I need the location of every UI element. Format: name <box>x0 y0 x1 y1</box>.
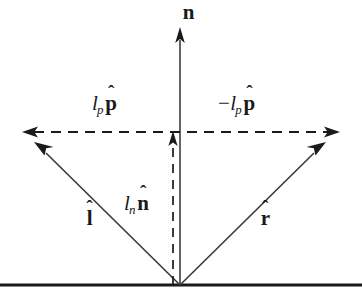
reflection-diagram: ˆn lpˆp −lpˆp lnˆn ˆl ˆr <box>0 0 362 302</box>
reflected-vector <box>180 142 326 285</box>
hat-accent-icon: ˆ <box>246 82 252 101</box>
hat-accent-icon: ˆ <box>185 0 191 10</box>
unit-vector-n-component: ˆn <box>137 193 150 214</box>
incident-vector <box>34 142 180 285</box>
incident-vector-shaft <box>46 153 180 285</box>
scalar-ln: ln <box>124 191 136 215</box>
incident-vector-arrowhead <box>34 142 54 156</box>
label-parallel-component-right: −lpˆp <box>218 93 256 116</box>
label-normal-vector: ˆn <box>181 2 195 23</box>
label-normal-component: lnˆn <box>124 193 149 216</box>
scalar-lp-left-subscript: p <box>97 102 104 117</box>
hat-accent-icon: ˆ <box>108 82 114 101</box>
unit-vector-n: ˆn <box>182 2 195 23</box>
minus-sign: − <box>218 91 230 115</box>
label-parallel-component-left: lpˆp <box>92 93 117 116</box>
normal-component-vector <box>168 131 177 285</box>
diagram-canvas <box>0 0 362 302</box>
reflected-vector-shaft <box>180 153 314 285</box>
label-reflected-vector: ˆr <box>259 208 270 229</box>
hat-accent-icon: ˆ <box>262 197 268 216</box>
unit-vector-r: ˆr <box>260 208 270 229</box>
hat-accent-icon: ˆ <box>86 197 92 216</box>
scalar-ln-subscript: n <box>129 202 136 217</box>
unit-vector-l: ˆl <box>86 208 93 229</box>
unit-vector-p-right: ˆp <box>243 93 256 114</box>
scalar-lp-left: lp <box>92 91 104 115</box>
hat-accent-icon: ˆ <box>140 182 146 201</box>
normal-component-arrowhead <box>168 131 177 146</box>
label-incident-vector: ˆl <box>85 208 93 229</box>
parallel-component-axis <box>22 126 340 137</box>
unit-vector-p-left: ˆp <box>105 93 118 114</box>
reflected-vector-arrowhead <box>306 142 326 156</box>
scalar-lp-right: lp <box>230 91 242 115</box>
scalar-lp-right-subscript: p <box>235 102 242 117</box>
normal-vector <box>175 27 185 285</box>
